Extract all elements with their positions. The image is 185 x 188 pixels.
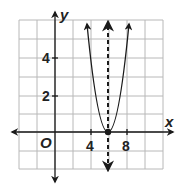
graph: y x O 4 2 4 8 bbox=[0, 0, 185, 188]
x-axis-label: x bbox=[164, 113, 174, 130]
y-tick-label-2: 2 bbox=[42, 88, 50, 104]
y-tick-label-4: 4 bbox=[42, 50, 50, 66]
origin-label: O bbox=[40, 134, 52, 151]
vertex-point bbox=[105, 129, 111, 135]
x-tick-label-8: 8 bbox=[122, 138, 130, 154]
x-tick-label-4: 4 bbox=[86, 138, 94, 154]
axes bbox=[12, 12, 173, 182]
y-axis-label: y bbox=[59, 6, 69, 23]
